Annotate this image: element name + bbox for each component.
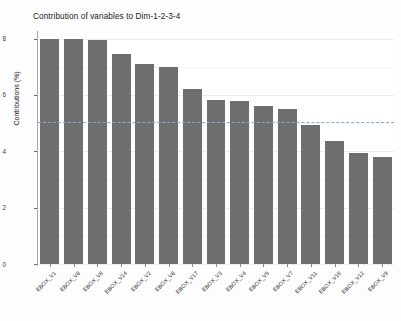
x-axis-tick-label: EBOX_V14 bbox=[82, 270, 129, 317]
plot-panel: EBOX_V1EBOX_V6EBOX_V8EBOX_V14EBOX_V2EBOX… bbox=[38, 33, 394, 264]
x-axis-tick-mark bbox=[97, 264, 98, 267]
bar bbox=[373, 157, 392, 264]
x-axis-tick-mark bbox=[263, 264, 264, 267]
x-axis-tick-label: EBOX_V7 bbox=[248, 270, 295, 317]
x-axis-tick-label: EBOX_V4 bbox=[200, 270, 247, 317]
bar bbox=[301, 125, 320, 264]
x-axis-tick-mark bbox=[382, 264, 383, 267]
bar bbox=[230, 101, 249, 264]
x-axis-tick-mark bbox=[358, 264, 359, 267]
bar bbox=[64, 39, 83, 264]
bar bbox=[88, 40, 107, 264]
bar bbox=[325, 141, 344, 264]
y-axis-title: Contributions (%) bbox=[13, 39, 20, 159]
x-axis-tick-mark bbox=[121, 264, 122, 267]
chart-title: Contribution of variables to Dim-1-2-3-4 bbox=[33, 12, 180, 21]
y-axis-tick-mark bbox=[34, 95, 37, 96]
x-axis-tick-label: EBOX_V5 bbox=[224, 270, 271, 317]
x-axis-tick-label: EBOX_V3 bbox=[177, 270, 224, 317]
bar bbox=[207, 100, 226, 264]
reference-line bbox=[38, 122, 394, 123]
x-axis-tick-mark bbox=[50, 264, 51, 267]
x-axis-tick-label: EBOX_V18 bbox=[295, 270, 342, 317]
bar bbox=[254, 106, 273, 264]
bar bbox=[135, 64, 154, 264]
y-axis-tick-label: 8 bbox=[2, 35, 6, 42]
x-axis-tick-label: EBOX_V1 bbox=[10, 270, 57, 317]
x-axis-tick-label: EBOX_V2 bbox=[105, 270, 152, 317]
y-axis-tick-label: 2 bbox=[2, 204, 6, 211]
x-axis-tick-label: EBOX_V9 bbox=[343, 270, 390, 317]
x-axis-tick-mark bbox=[145, 264, 146, 267]
y-axis-tick-label: 4 bbox=[2, 148, 6, 155]
bar bbox=[349, 153, 368, 264]
bar bbox=[159, 67, 178, 264]
x-axis-tick-mark bbox=[74, 264, 75, 267]
y-axis-tick-mark bbox=[34, 151, 37, 152]
x-axis-tick-mark bbox=[287, 264, 288, 267]
y-axis-tick-label: 6 bbox=[2, 91, 6, 98]
x-axis-tick-label: EBOX_V11 bbox=[271, 270, 318, 317]
x-axis-tick-label: EBOX_V17 bbox=[153, 270, 200, 317]
x-axis-tick-mark bbox=[240, 264, 241, 267]
x-axis-tick-label: EBOX_V8 bbox=[58, 270, 105, 317]
y-axis-tick-label: 0 bbox=[2, 261, 6, 268]
y-axis-tick-mark bbox=[34, 208, 37, 209]
x-axis-tick-mark bbox=[169, 264, 170, 267]
bar bbox=[278, 109, 297, 264]
bar bbox=[112, 54, 131, 264]
y-axis-tick-mark bbox=[34, 39, 37, 40]
bar bbox=[183, 89, 202, 264]
x-axis-tick-mark bbox=[192, 264, 193, 267]
chart-canvas: Contribution of variables to Dim-1-2-3-4… bbox=[0, 0, 401, 321]
x-axis-tick-mark bbox=[335, 264, 336, 267]
bar bbox=[40, 39, 59, 264]
x-axis-tick-label: EBOX_V12 bbox=[319, 270, 366, 317]
x-axis-tick-mark bbox=[216, 264, 217, 267]
x-axis-tick-mark bbox=[311, 264, 312, 267]
x-axis-tick-label: EBOX_V6 bbox=[129, 270, 176, 317]
x-axis-tick-label: EBOX_V6 bbox=[34, 270, 81, 317]
y-axis-tick-mark bbox=[34, 264, 37, 265]
